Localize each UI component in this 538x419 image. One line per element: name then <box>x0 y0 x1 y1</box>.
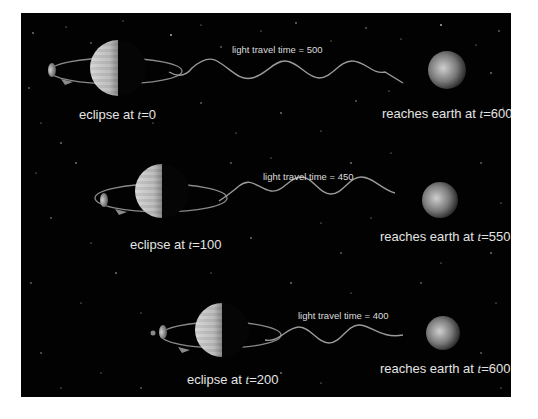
reaches-earth-label: reaches earth at t=550 <box>380 230 510 243</box>
eclipse-label: eclipse at t=100 <box>130 238 221 251</box>
earth-planet <box>422 182 458 218</box>
light-travel-time-label: light travel time = 500 <box>232 45 323 55</box>
light-travel-time-label: light travel time = 400 <box>298 311 389 321</box>
space-background: light travel time = 500 eclipse at t=0 r… <box>21 13 511 397</box>
moon-io <box>100 193 108 207</box>
moon-io <box>48 63 56 77</box>
earth-planet <box>426 316 460 350</box>
light-wave <box>169 59 403 83</box>
light-wave <box>265 325 403 343</box>
earth-planet <box>428 51 466 89</box>
eclipse-label: eclipse at t=0 <box>79 108 156 121</box>
light-travel-time-label: light travel time = 450 <box>263 172 354 182</box>
moon-io <box>159 325 167 339</box>
orbit-arrow <box>178 347 190 353</box>
diagram-canvas <box>21 13 511 397</box>
reaches-earth-label: reaches earth at t=600 <box>380 362 510 375</box>
eclipse-label: eclipse at t=200 <box>187 373 278 386</box>
reaches-earth-label: reaches earth at t=600 <box>382 107 511 120</box>
